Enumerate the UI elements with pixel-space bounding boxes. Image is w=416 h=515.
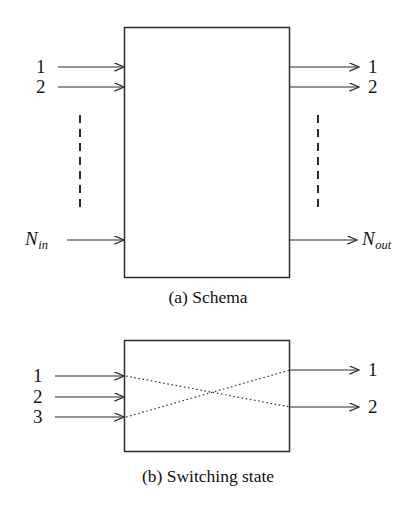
schema-output-label-n-out-subscript: out — [375, 238, 391, 252]
switching-state-panel-graphics — [55, 341, 359, 452]
schema-input-label-n-in: Nin — [25, 229, 47, 248]
schema-switch-box — [125, 28, 290, 278]
schema-input-label-n-in-subscript: in — [38, 238, 48, 252]
schema-caption: (a) Schema — [0, 287, 416, 308]
schema-panel-graphics — [58, 28, 359, 278]
schema-output-label-1: 1 — [368, 57, 378, 76]
schema-output-label-n-out-base: N — [362, 228, 375, 249]
switching-output-label-2: 2 — [368, 397, 378, 416]
switching-input-label-2: 2 — [33, 387, 43, 406]
schema-input-label-1: 1 — [36, 57, 46, 76]
switching-input-label-3: 3 — [33, 407, 43, 426]
schema-output-label-n-out: Nout — [362, 229, 391, 248]
schema-input-label-n-in-base: N — [25, 228, 38, 249]
figure-root: 1 2 Nin 1 2 Nout (a) Schema 1 2 3 1 2 (b… — [0, 0, 416, 515]
schema-output-label-2: 2 — [368, 77, 378, 96]
diagram-vector-layer — [0, 0, 416, 515]
switching-switch-box — [125, 341, 290, 452]
switching-input-label-1: 1 — [33, 366, 43, 385]
schema-input-label-2: 2 — [36, 77, 46, 96]
switching-output-label-1: 1 — [368, 360, 378, 379]
switching-state-caption: (b) Switching state — [0, 466, 416, 487]
